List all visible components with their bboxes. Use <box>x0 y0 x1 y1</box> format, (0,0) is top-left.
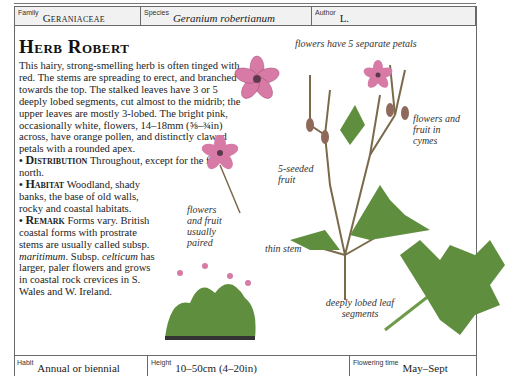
annotation-petals: flowers have 5 separate petals <box>295 38 417 49</box>
species-cell: Species Geranium robertianum <box>141 7 312 25</box>
flowering-cell: Flowering time May–Sept <box>350 356 476 376</box>
annotation-fruit: 5-seeded fruit <box>278 163 318 185</box>
habitat-section: • Habitat Woodland, shady banks, the bas… <box>19 179 157 215</box>
plant-title: Herb Robert <box>19 36 130 58</box>
habitat-heading: Habitat <box>25 177 64 191</box>
family-value: Geraniaceae <box>43 12 105 24</box>
annotation-cymes: flowers and fruit in cymes <box>413 113 463 146</box>
flowering-label: Flowering time <box>353 359 399 366</box>
distribution-heading: Distribution <box>25 153 87 167</box>
habit-value: Annual or biennial <box>37 362 119 374</box>
height-cell: Height 10–50cm (4–20in) <box>148 356 350 376</box>
habit-label: Habit <box>17 359 33 366</box>
summary-footer: Habit Annual or biennial Height 10–50cm … <box>14 355 476 376</box>
family-cell: Family Geraniaceae <box>15 7 141 25</box>
remark-heading: Remark <box>25 213 64 227</box>
second-flower-illustration <box>200 135 260 215</box>
height-value: 10–50cm (4–20in) <box>175 362 257 374</box>
annotation-stem: thin stem <box>265 243 301 254</box>
top-rule <box>14 0 476 4</box>
family-label: Family <box>18 9 39 16</box>
height-label: Height <box>151 359 171 366</box>
species-label: Species <box>144 9 169 16</box>
remark-section: • Remark Forms vary. British coastal for… <box>19 215 157 298</box>
annotation-leaf: deeply lobed leaf segments <box>325 297 395 319</box>
author-label: Author <box>315 9 336 16</box>
author-cell: Author L. <box>312 7 475 25</box>
leaf-illustration <box>380 235 510 335</box>
author-value: L. <box>340 12 349 24</box>
habit-cell: Habit Annual or biennial <box>14 356 148 376</box>
flowering-value: May–Sept <box>403 362 448 374</box>
species-value: Geranium robertianum <box>173 12 275 24</box>
annotation-paired: flowers and fruit usually paired <box>187 204 227 248</box>
whole-plant-illustration <box>160 258 260 340</box>
taxonomy-header: Family Geraniaceae Species Geranium robe… <box>14 6 476 26</box>
